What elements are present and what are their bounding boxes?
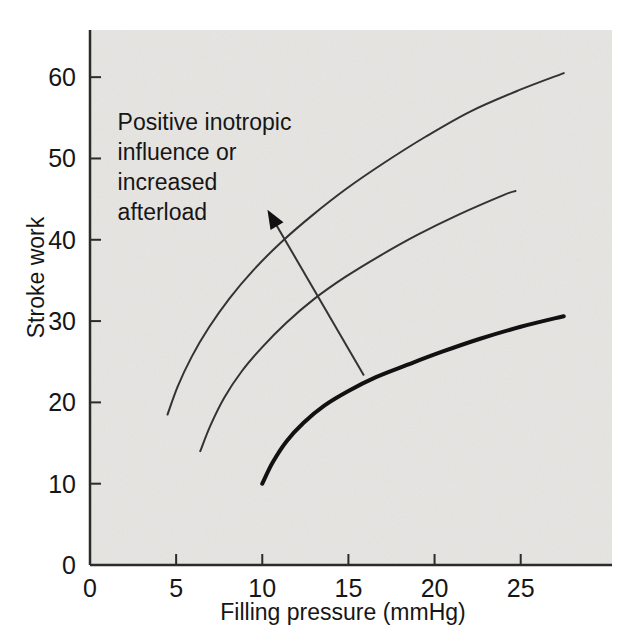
y-tick-label-40: 40 [48, 226, 76, 254]
x-tick-label-10: 10 [248, 574, 276, 602]
x-axis-title: Filling pressure (mmHg) [220, 599, 465, 625]
figure-container: 01020304050600510152025Filling pressure … [0, 0, 642, 644]
y-tick-label-30: 30 [48, 307, 76, 335]
y-tick-label-60: 60 [48, 63, 76, 91]
annotation-line-3: increased [118, 169, 218, 195]
annotation-line-1: Positive inotropic [118, 109, 292, 135]
x-tick-label-15: 15 [335, 574, 363, 602]
y-tick-label-10: 10 [48, 470, 76, 498]
y-tick-label-20: 20 [48, 388, 76, 416]
annotation-line-4: afterload [118, 199, 208, 225]
annotation-line-2: influence or [118, 139, 237, 165]
x-tick-label-20: 20 [421, 574, 449, 602]
y-tick-label-50: 50 [48, 144, 76, 172]
x-tick-label-5: 5 [169, 574, 183, 602]
x-tick-label-25: 25 [507, 574, 535, 602]
y-axis-title: Stroke work [23, 216, 49, 338]
x-tick-label-0: 0 [83, 574, 97, 602]
y-tick-label-0: 0 [62, 551, 76, 579]
